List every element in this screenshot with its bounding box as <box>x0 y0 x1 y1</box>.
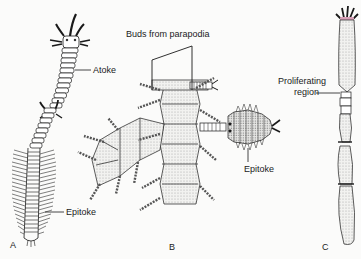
panel-label-b: B <box>169 242 175 252</box>
panel-label-a: A <box>10 240 16 250</box>
label-region: region <box>294 87 319 97</box>
worm-c <box>316 6 358 245</box>
label-epitoke-b: Epitoke <box>244 164 274 174</box>
label-atoke: Atoke <box>93 65 116 75</box>
polychaete-epitoky-figure: Atoke Epitoke Buds from parapodia Epitok… <box>0 0 361 259</box>
label-buds-from-parapodia: Buds from parapodia <box>126 29 210 39</box>
panel-label-c: C <box>322 242 329 252</box>
label-epitoke-a: Epitoke <box>66 207 96 217</box>
label-proliferating: Proliferating <box>278 76 326 86</box>
